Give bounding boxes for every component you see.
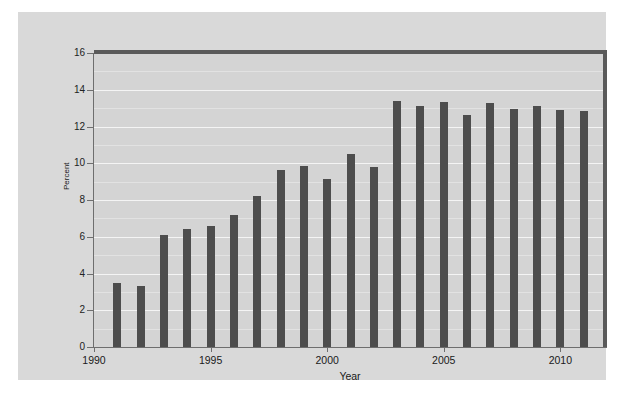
bar xyxy=(416,106,424,347)
bar xyxy=(486,103,494,347)
y-axis-line xyxy=(93,53,94,347)
bar xyxy=(253,196,261,347)
y-tick-mark xyxy=(87,310,93,311)
x-tick-mark xyxy=(94,347,95,352)
bar xyxy=(510,109,518,347)
y-tick-mark xyxy=(87,200,93,201)
plot-frame-right-edge xyxy=(603,50,607,347)
y-axis-title: Percent xyxy=(62,162,71,190)
x-tick-mark xyxy=(560,347,561,352)
y-tick-mark xyxy=(87,53,93,54)
x-tick-label: 2010 xyxy=(537,355,583,366)
x-tick-mark xyxy=(327,347,328,352)
x-tick-label: 1995 xyxy=(188,355,234,366)
bar xyxy=(463,115,471,347)
gridline-major xyxy=(94,127,607,128)
y-tick-mark xyxy=(87,127,93,128)
bar xyxy=(277,170,285,347)
y-tick-label: 12 xyxy=(63,122,85,132)
y-tick-mark xyxy=(87,90,93,91)
scanned-page: 0246810121416 19901995200020052010 Perce… xyxy=(0,0,621,399)
y-tick-label: 0 xyxy=(63,342,85,352)
y-tick-label: 2 xyxy=(63,305,85,315)
bar xyxy=(556,110,564,347)
x-axis-title: Year xyxy=(93,370,607,382)
y-tick-label-wrap: 6 xyxy=(58,232,85,242)
x-tick-mark xyxy=(444,347,445,352)
x-tick-mark xyxy=(211,347,212,352)
y-tick-label: 8 xyxy=(63,195,85,205)
y-tick-label-wrap: 16 xyxy=(58,48,85,58)
gridline-minor xyxy=(94,145,607,146)
bar xyxy=(533,106,541,347)
y-tick-mark xyxy=(87,237,93,238)
y-tick-mark xyxy=(87,274,93,275)
x-tick-label: 1990 xyxy=(71,355,117,366)
plot-area xyxy=(94,53,607,347)
plot-frame-top-edge xyxy=(94,50,607,54)
y-tick-label-wrap: 12 xyxy=(58,122,85,132)
bar xyxy=(347,154,355,347)
bar xyxy=(323,179,331,347)
y-tick-mark xyxy=(87,347,93,348)
bar xyxy=(183,229,191,347)
gridline-major xyxy=(94,90,607,91)
y-tick-mark xyxy=(87,163,93,164)
x-tick-label: 2000 xyxy=(304,355,350,366)
y-tick-label-wrap: 14 xyxy=(58,85,85,95)
bar xyxy=(137,286,145,347)
y-tick-label: 4 xyxy=(63,269,85,279)
bar xyxy=(230,215,238,347)
y-tick-label-wrap: 4 xyxy=(58,269,85,279)
x-tick-label: 2005 xyxy=(421,355,467,366)
y-tick-label: 14 xyxy=(63,85,85,95)
gridline-minor xyxy=(94,108,607,109)
bar xyxy=(580,111,588,347)
gridline-minor xyxy=(94,71,607,72)
figure-panel: 0246810121416 19901995200020052010 Perce… xyxy=(18,12,606,380)
bar xyxy=(160,235,168,347)
y-tick-label: 6 xyxy=(63,232,85,242)
y-tick-label: 16 xyxy=(63,48,85,58)
bar xyxy=(300,166,308,347)
bar xyxy=(207,226,215,347)
y-tick-label-wrap: 0 xyxy=(58,342,85,352)
bar xyxy=(113,283,121,347)
x-axis-line xyxy=(93,347,607,348)
y-tick-label-wrap: 8 xyxy=(58,195,85,205)
bar xyxy=(370,167,378,347)
y-tick-label-wrap: 2 xyxy=(58,305,85,315)
bar xyxy=(440,102,448,347)
bar xyxy=(393,101,401,347)
